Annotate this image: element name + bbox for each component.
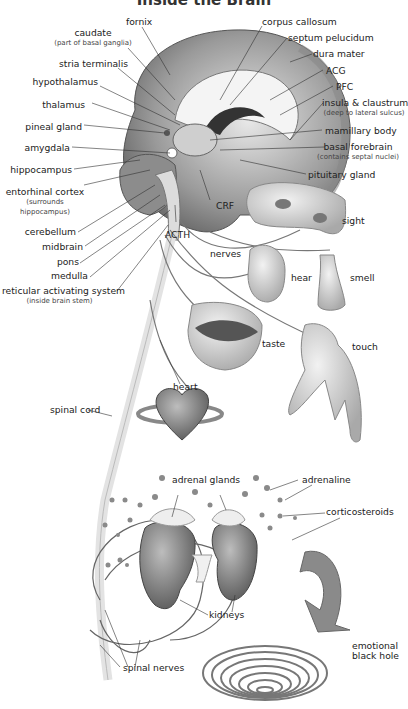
label-adrenal-glands: adrenal glands (172, 475, 240, 485)
nose-image (318, 255, 345, 310)
label-caudate-text: caudate (52, 28, 134, 38)
label-corpus-callosum: corpus callosum (262, 17, 337, 27)
label-septum-pelucidum: septum pelucidum (288, 33, 374, 43)
label-entorhinal-text: entorhinal cortex (4, 187, 86, 197)
label-midbrain: midbrain (20, 242, 83, 252)
label-entorhinal-sub1: (surrounds (4, 197, 86, 207)
label-medulla: medulla (40, 271, 88, 281)
label-hypothalamus: hypothalamus (10, 77, 98, 87)
label-nerves: nerves (210, 249, 241, 259)
label-hear: hear (291, 273, 312, 283)
label-pfc: PFC (336, 82, 353, 92)
label-pons: pons (40, 257, 79, 267)
label-entorhinal-sub2: hippocampus) (4, 207, 86, 217)
label-cerebellum: cerebellum (10, 227, 76, 237)
label-mamillary-body: mamillary body (325, 126, 397, 136)
label-pituitary-gland: pituitary gland (308, 170, 375, 180)
kidneys-image (140, 509, 257, 609)
label-insula-claustrum: insula & claustrum (deep to lateral sulc… (322, 98, 406, 118)
label-basal-forebrain-sub: (contains septal nuclei) (316, 152, 400, 162)
label-hippocampus: hippocampus (0, 165, 72, 175)
ear-image (248, 245, 285, 302)
label-stria-terminalis: stria terminalis (20, 59, 128, 69)
label-fornix: fornix (126, 17, 152, 27)
label-acth: ACTH (165, 230, 190, 240)
heart-image (138, 389, 222, 440)
label-touch: touch (352, 342, 378, 352)
label-kidneys: kidneys (209, 610, 244, 620)
label-insula-text: insula & claustrum (322, 98, 406, 108)
label-amygdala: amygdala (10, 143, 70, 153)
label-smell: smell (350, 273, 375, 283)
hand-image (289, 324, 362, 442)
label-spinal-cord: spinal cord (50, 405, 100, 415)
curved-arrow-icon (300, 551, 350, 632)
diagram-title: Inside the Brain (0, 0, 408, 9)
label-sight: sight (342, 216, 365, 226)
label-spinal-nerves: spinal nerves (123, 663, 184, 673)
label-adrenaline: adrenaline (302, 475, 351, 485)
hormone-particles (103, 475, 298, 568)
label-black-hole-text: black hole (352, 651, 399, 661)
label-emotional-black-hole: emotional black hole (352, 641, 399, 661)
label-insula-sub: (deep to lateral sulcus) (322, 108, 406, 118)
label-ras-sub: (inside brain stem) (2, 296, 117, 306)
label-basal-forebrain: basal forebrain (contains septal nuclei) (316, 142, 400, 162)
label-crf: CRF (216, 201, 234, 211)
label-corticosteroids: corticosteroids (326, 507, 394, 517)
label-dura-mater: dura mater (313, 49, 365, 59)
label-thalamus: thalamus (10, 100, 85, 110)
label-ras-text: reticular activating system (2, 286, 117, 296)
label-heart: heart (173, 382, 198, 392)
spiral-vortex-icon (203, 646, 327, 700)
label-taste: taste (262, 339, 285, 349)
label-caudate-sub: (part of basal ganglia) (52, 38, 134, 48)
label-entorhinal-cortex: entorhinal cortex (surrounds hippocampus… (4, 187, 86, 217)
label-basal-forebrain-text: basal forebrain (316, 142, 400, 152)
label-reticular-activating-system: reticular activating system (inside brai… (2, 286, 117, 306)
label-acg: ACG (326, 66, 346, 76)
label-caudate: caudate (part of basal ganglia) (52, 28, 134, 48)
label-pineal-gland: pineal gland (10, 122, 82, 132)
